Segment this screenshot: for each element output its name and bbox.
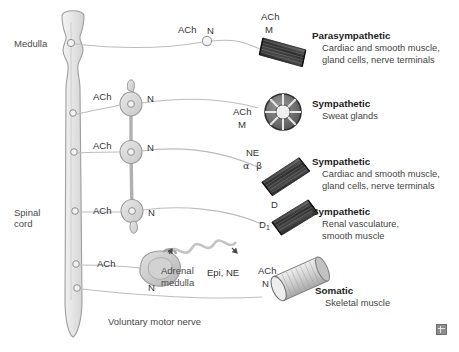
parasympathetic-target-line1: Cardiac and smooth muscle, <box>322 43 440 54</box>
preganglionic-fiber-sympathetic-adrenergic <box>78 152 120 153</box>
expand-image-icon[interactable] <box>436 324 447 335</box>
parasympathetic-title: Parasympathetic <box>312 30 390 42</box>
somatic-title: Somatic <box>315 285 353 297</box>
postganglionic-fiber-parasympathetic <box>212 40 262 50</box>
sympathetic-sweat-postganglionic-transmitter: ACh <box>233 106 251 117</box>
sympathetic-sweat-postganglionic-receptor: M <box>238 119 246 130</box>
sympathetic-sweat-preganglionic-transmitter: ACh <box>93 91 111 102</box>
somatic-receptor: N <box>262 278 269 289</box>
preganglionic-fiber-sympathetic-sweat <box>77 105 120 114</box>
sympathetic-adrenergic-receptor-beta: β <box>256 160 262 171</box>
sympathetic-dopaminergic-postganglionic-receptor: D1 <box>259 219 270 232</box>
sympathetic-dopaminergic-preganglionic-receptor: N <box>148 207 155 218</box>
sympathetic-dopaminergic-target-line2: smooth muscle <box>322 231 385 242</box>
sympathetic-dopaminergic-postganglionic-transmitter: D <box>271 199 278 210</box>
sympathetic-sweat-preganglionic-receptor: N <box>147 93 154 104</box>
dopamine-receptor-base: D <box>259 219 266 230</box>
parasympathetic-terminal-ganglion <box>202 36 211 45</box>
effector-dark-muscle-adrenergic <box>260 156 311 197</box>
effector-sweat-gland <box>265 94 301 130</box>
dopamine-receptor-subscript: 1 <box>266 224 270 231</box>
sympathetic-adrenergic-target-line1: Cardiac and smooth muscle, <box>322 169 440 180</box>
sympathetic-adrenergic-title: Sympathetic <box>312 156 370 168</box>
parasympathetic-preganglionic-transmitter: ACh <box>178 24 196 35</box>
sympathetic-adrenergic-preganglionic-receptor: N <box>147 142 154 153</box>
voluntary-motor-nerve-label: Voluntary motor nerve <box>108 316 201 327</box>
somatic-motor-fiber <box>81 289 262 298</box>
adrenal-medulla-label-line2: medulla <box>161 277 194 288</box>
preganglionic-fiber-parasympathetic <box>75 42 203 47</box>
sympathetic-dopaminergic-title: Sympathetic <box>312 206 370 218</box>
adrenal-hormones-label: Epi, NE <box>207 267 239 278</box>
medulla-label: Medulla <box>14 38 47 49</box>
sympathetic-adrenergic-postganglionic-transmitter: NE <box>246 147 259 158</box>
somatic-transmitter: ACh <box>258 265 276 276</box>
parasympathetic-preganglionic-receptor: N <box>207 25 214 36</box>
parasympathetic-postganglionic-receptor: M <box>265 24 273 35</box>
sympathetic-sweat-target-line1: Sweat glands <box>322 111 378 122</box>
somatic-target-line1: Skeletal muscle <box>325 298 390 309</box>
spinal-cord-label-line2: cord <box>14 218 32 229</box>
sympathetic-dopaminergic-preganglionic-transmitter: ACh <box>93 205 111 216</box>
adrenal-preganglionic-transmitter: ACh <box>97 258 115 269</box>
sympathetic-chain-ganglia <box>120 80 143 233</box>
sympathetic-dopaminergic-target-line1: Renal vasculature, <box>322 219 399 230</box>
sympathetic-adrenergic-preganglionic-transmitter: ACh <box>93 140 111 151</box>
sympathetic-adrenergic-target-line2: gland cells, nerve terminals <box>322 181 435 192</box>
effector-dark-muscle-parasympathetic <box>257 33 309 71</box>
autonomic-nervous-system-diagram: Medulla Spinal cord ACh N ACh M Parasymp… <box>0 0 459 352</box>
spinal-cord-label-line1: Spinal <box>14 207 40 218</box>
sympathetic-adrenergic-receptor-alpha: α <box>243 160 249 171</box>
postganglionic-fiber-sympathetic-dopaminergic <box>143 208 262 224</box>
hormone-transport-vessel <box>169 240 236 252</box>
sympathetic-sweat-title: Sympathetic <box>312 98 370 110</box>
adrenal-medulla-label-line1: Adrenal <box>161 265 194 276</box>
parasympathetic-target-line2: gland cells, nerve terminals <box>322 55 435 66</box>
parasympathetic-postganglionic-transmitter: ACh <box>261 11 279 22</box>
expand-icon-vertical-bar <box>440 326 441 333</box>
adrenal-preganglionic-receptor: N <box>148 282 155 293</box>
